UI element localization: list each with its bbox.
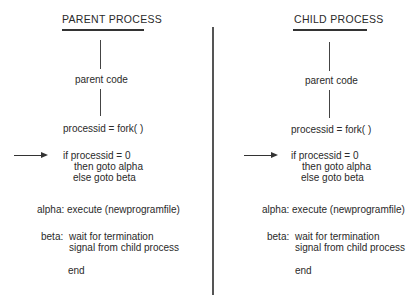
child-then-statement: then goto alpha: [302, 161, 371, 172]
child-alpha-statement: alpha: execute (newprogramfile): [262, 204, 405, 215]
child-else-statement: else goto beta: [301, 172, 364, 183]
parent-then-statement: then goto alpha: [74, 161, 143, 172]
parent-arrow-icon: [14, 155, 46, 156]
parent-if-statement: if processid = 0: [63, 150, 131, 161]
child-arrow-icon: [244, 155, 276, 156]
parent-process-header: PARENT PROCESS: [62, 13, 162, 25]
child-beta-label: beta:: [267, 231, 289, 242]
parent-beta-line-1: wait for termination: [69, 231, 153, 242]
parent-end-statement: end: [68, 265, 85, 276]
parent-header-underline: [62, 29, 144, 31]
child-fork-statement: processid = fork( ): [291, 124, 371, 135]
child-beta-line-2: signal from child process: [295, 242, 405, 253]
parent-code-label: parent code: [75, 74, 128, 85]
parent-beta-line-2: signal from child process: [69, 242, 179, 253]
parent-else-statement: else goto beta: [73, 172, 136, 183]
child-if-statement: if processid = 0: [291, 150, 359, 161]
child-flow-line-bottom: [329, 90, 330, 118]
parent-fork-statement: processid = fork( ): [63, 123, 143, 134]
child-end-statement: end: [295, 265, 312, 276]
child-header-underline: [293, 29, 367, 31]
parent-flow-line-top: [100, 40, 101, 69]
child-code-label: parent code: [305, 75, 358, 86]
child-process-header: CHILD PROCESS: [294, 13, 384, 25]
child-flow-line-top: [329, 42, 330, 71]
column-divider: [212, 27, 214, 295]
parent-beta-label: beta:: [41, 231, 63, 242]
parent-flow-line-bottom: [100, 89, 101, 116]
parent-alpha-statement: alpha: execute (newprogramfile): [37, 204, 180, 215]
child-beta-line-1: wait for termination: [295, 231, 379, 242]
